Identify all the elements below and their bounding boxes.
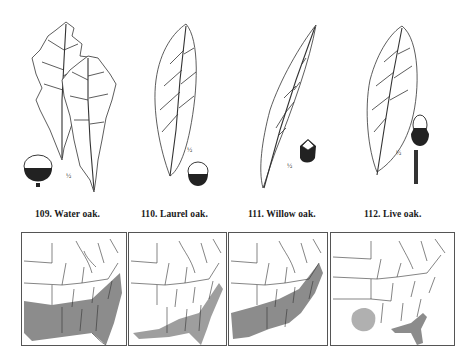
range-map-live-oak	[330, 232, 455, 346]
caption-willow-oak: 111. Willow oak.	[248, 209, 316, 219]
caption-live-oak: 112. Live oak.	[364, 209, 421, 219]
scale-mark-112: ½	[396, 149, 401, 157]
caption-water-oak: 109. Water oak.	[35, 209, 100, 219]
range-map-laurel-oak	[128, 232, 227, 346]
live-oak-acorn-icon	[411, 115, 429, 184]
range-map-willow-oak	[228, 232, 328, 346]
range-map-water-oak	[21, 232, 127, 346]
water-oak-acorn-icon	[24, 155, 52, 187]
scale-mark-111: ½	[287, 162, 292, 170]
scale-mark-110: ½	[187, 146, 192, 154]
laurel-oak-acorn-icon	[188, 162, 208, 186]
live-oak-leaf-icon	[367, 26, 417, 175]
willow-oak-acorn-icon	[300, 139, 316, 163]
caption-laurel-oak: 110. Laurel oak.	[141, 209, 208, 219]
scale-mark-109: ½	[66, 172, 71, 180]
leaf-and-acorn-illustrations: ½ ½ ½ ½	[0, 0, 465, 205]
